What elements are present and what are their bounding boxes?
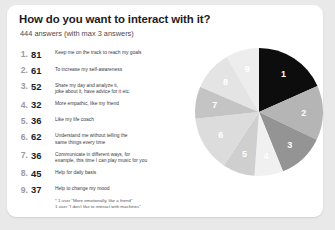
answer-count: 36 [31, 115, 47, 126]
answer-text-line: Help for daily basis [55, 170, 96, 175]
pie-slice-label: 6 [218, 130, 223, 140]
answers-list: 1.81Keep me on the track to reach my goa… [16, 49, 186, 201]
answer-row: 5.36Like my life coach [16, 116, 186, 127]
footnote-line: 1 user "I don't like to interact with ma… [55, 204, 141, 210]
answer-text-line: joke about it, have advice for it etc. [55, 89, 183, 95]
answer-count: 32 [31, 99, 47, 110]
pie-chart-svg: 123456789 [193, 46, 323, 178]
answer-rank: 8. [16, 168, 28, 178]
answer-text: Communicate in different ways, forexampl… [55, 152, 183, 164]
slide-card: How do you want to interact with it? 444… [7, 5, 323, 217]
answer-text-line: Communicate in different ways, for [55, 152, 130, 157]
pie-slice-label: 8 [223, 77, 228, 87]
answer-text: Help for daily basis [55, 170, 183, 176]
answer-rank: 4. [16, 100, 28, 110]
answer-count: 81 [31, 49, 47, 60]
pie-slice-label: 1 [281, 69, 286, 79]
slide-subtitle: 444 answers (with max 3 answers) [20, 29, 134, 38]
answer-count: 52 [31, 81, 47, 92]
answer-rank: 5. [16, 116, 28, 126]
answer-text: To increase my self-awareness [55, 67, 183, 73]
answer-text: Keep me on the track to reach my goals [55, 50, 183, 56]
answer-row: 2.61To increase my self-awareness [16, 65, 186, 76]
answer-row: 1.81Keep me on the track to reach my goa… [16, 49, 186, 60]
footnotes: * 1 user "More emotionally, like a frien… [55, 198, 141, 209]
pie-slice-label: 2 [301, 108, 306, 118]
pie-chart: 123456789 [193, 46, 323, 178]
pie-slice-label: 7 [212, 100, 217, 110]
answer-count: 37 [31, 184, 47, 195]
answer-text-line: same things every time [55, 140, 183, 146]
answer-row: 4.32More empathic, like my friend [16, 100, 186, 111]
footnote-line: * 1 user "More emotionally, like a frien… [55, 198, 141, 204]
answer-text-line: Understand me without telling the [55, 133, 128, 138]
answer-rank: 7. [16, 150, 28, 160]
answer-text-line: Help to change my mood [55, 186, 109, 191]
answer-rank: 2. [16, 65, 28, 75]
answer-row: 8.45Help for daily basis [16, 168, 186, 179]
answer-rank: 6. [16, 132, 28, 142]
answer-text-line: Like my life coach [55, 117, 94, 122]
pie-slice-label: 5 [242, 149, 247, 159]
answer-count: 62 [31, 131, 47, 142]
answer-text: Help to change my mood [55, 186, 183, 192]
answer-text-line: Keep me on the track to reach my goals [55, 50, 141, 55]
answer-row: 7.36Communicate in different ways, forex… [16, 150, 186, 163]
answer-count: 61 [31, 65, 47, 76]
page-title: How do you want to interact with it? [19, 13, 210, 25]
answer-text: Understand me without telling thesame th… [55, 133, 183, 145]
pie-slice-label: 9 [245, 64, 250, 74]
answer-rank: 3. [16, 81, 28, 91]
pie-slice-label: 4 [263, 151, 268, 161]
answer-text-line: More empathic, like my friend [55, 101, 119, 106]
answer-row: 9.37Help to change my mood [16, 185, 186, 196]
answer-row: 6.62Understand me without telling thesam… [16, 132, 186, 145]
answer-rank: 1. [16, 49, 28, 59]
answer-count: 45 [31, 168, 47, 179]
answer-count: 36 [31, 150, 47, 161]
answer-text-line: To increase my self-awareness [55, 67, 122, 72]
answer-text: More empathic, like my friend [55, 101, 183, 107]
answer-rank: 9. [16, 185, 28, 195]
answer-text: Share my day and analyze it,joke about i… [55, 83, 183, 95]
answer-row: 3.52Share my day and analyze it,joke abo… [16, 81, 186, 94]
pie-slice-label: 3 [287, 140, 292, 150]
answer-text-line: Share my day and analyze it, [55, 83, 118, 88]
answer-text-line: example, this time I can play music for … [55, 158, 183, 164]
answer-text: Like my life coach [55, 117, 183, 123]
